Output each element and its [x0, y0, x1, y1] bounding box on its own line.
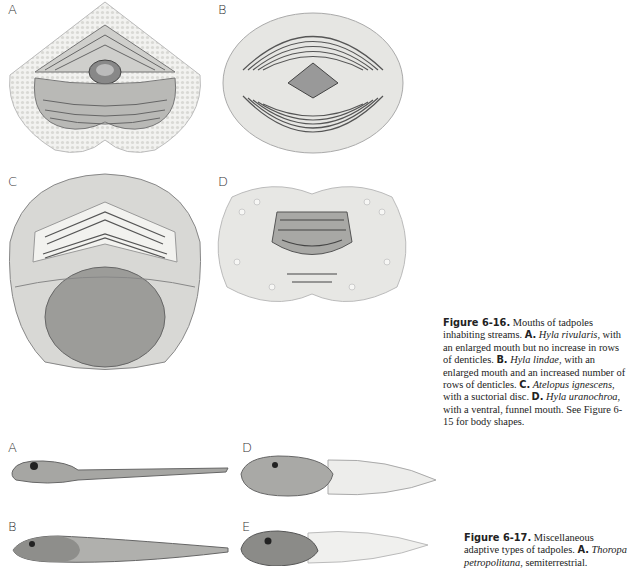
tadpole-illustration-e — [238, 527, 438, 566]
caption-letter: B. — [496, 354, 507, 365]
mouth-illustration-a — [5, 0, 205, 160]
panel-label-b: B — [8, 519, 17, 534]
caption-species: Hyla lindae — [510, 354, 559, 365]
tadpole-illustration-d — [238, 452, 438, 502]
mouth-illustration-c — [5, 172, 205, 372]
caption-figure-label: Figure 6-16. — [443, 317, 510, 328]
caption-figure-label: Figure 6-17. — [464, 532, 531, 543]
mouth-illustration-d — [212, 182, 412, 310]
caption-species: Hyla uranochroa — [546, 391, 617, 402]
caption-species: Hyla rivularis — [539, 329, 598, 340]
tadpole-illustration-b — [8, 534, 233, 566]
caption-text: , semiterrestrial. — [520, 557, 587, 568]
caption-letter: A. — [525, 329, 537, 340]
caption-letter: D. — [532, 391, 544, 402]
figure-6-17-caption: Figure 6-17. Miscellaneous adaptive type… — [464, 532, 628, 569]
panel-label-a: A — [8, 440, 17, 455]
figure-6-16-caption: Figure 6-16. Mouths of tadpoles inhabiti… — [443, 317, 628, 429]
tadpole-illustration-a — [8, 458, 233, 488]
caption-letter: A. — [577, 544, 589, 555]
caption-species: Atelopus ignescens — [533, 379, 612, 390]
caption-letter: C. — [519, 379, 530, 390]
mouth-illustration-b — [218, 8, 408, 158]
